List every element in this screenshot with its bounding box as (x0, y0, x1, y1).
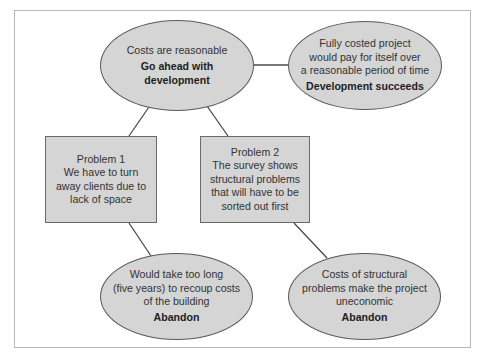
node-text: would pay for itself over (309, 51, 420, 64)
node-text: We have to turn (64, 166, 139, 179)
node-text: problems make the project (302, 282, 427, 295)
node-text: Problem 1 (77, 153, 125, 166)
node-text: structural problems (210, 173, 300, 186)
node-text: sorted out first (221, 200, 288, 213)
node-outcome: Go ahead with development (141, 60, 213, 87)
node-text: The survey shows (212, 159, 297, 172)
node-development-succeeds: Fully costed project would pay for itsel… (288, 21, 442, 110)
node-text: Costs of structural (322, 268, 407, 281)
node-text: Costs are reasonable (127, 44, 228, 57)
edge-problem-2-to-abandon-2 (294, 223, 327, 258)
edge-costs-to-problem-1 (129, 107, 149, 136)
outcome-line: development (141, 74, 213, 87)
node-text: away clients due to (56, 180, 146, 193)
node-text: of the building (144, 295, 210, 308)
node-abandon-recoup: Would take too long (five years) to reco… (100, 253, 253, 340)
node-text: a reasonable period of time (301, 64, 429, 77)
node-text: that will have to be (211, 186, 299, 199)
node-problem-1: Problem 1 We have to turn away clients d… (45, 136, 157, 223)
edge-costs-to-problem-2 (207, 106, 228, 136)
node-text: uneconomic (336, 295, 393, 308)
node-outcome: Abandon (342, 311, 388, 324)
node-text: (five years) to recoup costs (113, 282, 240, 295)
node-text: Would take too long (130, 268, 223, 281)
edge-problem-1-to-abandon-1 (129, 223, 151, 256)
node-abandon-structural: Costs of structural problems make the pr… (288, 253, 441, 340)
node-costs-reasonable: Costs are reasonable Go ahead with devel… (100, 20, 254, 111)
outcome-line: Go ahead with (141, 60, 213, 73)
node-problem-2: Problem 2 The survey shows structural pr… (200, 136, 310, 223)
node-outcome: Development succeeds (306, 80, 424, 93)
node-text: Fully costed project (319, 37, 410, 50)
node-text: Problem 2 (231, 146, 279, 159)
node-text: lack of space (70, 193, 132, 206)
node-outcome: Abandon (154, 311, 200, 324)
